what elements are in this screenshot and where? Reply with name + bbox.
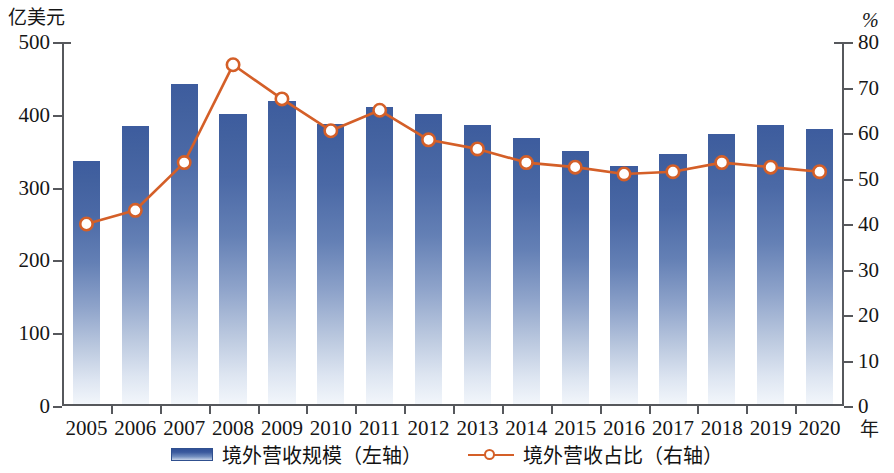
left-axis-tick-label: 500 <box>4 30 50 55</box>
chart-container: 亿美元 % 年 5004003002001000 807060504030201… <box>0 0 894 473</box>
x-axis-tick <box>697 406 699 414</box>
right-axis-tick <box>844 179 853 181</box>
right-axis-tick-label: 40 <box>858 212 894 237</box>
left-axis-tick <box>53 42 62 44</box>
line-marker <box>227 59 239 71</box>
line-marker <box>520 156 532 168</box>
x-axis-tick <box>502 406 504 414</box>
left-axis-tick <box>53 406 62 408</box>
line-marker <box>129 204 141 216</box>
line-marker <box>276 93 288 105</box>
x-axis-tick <box>209 406 211 414</box>
right-axis-tick-label: 70 <box>858 75 894 100</box>
line-marker <box>325 125 337 137</box>
right-axis-tick <box>844 315 853 317</box>
plot-area <box>62 42 844 406</box>
line-marker <box>618 168 630 180</box>
line-marker <box>373 104 385 116</box>
legend-item-line: 境外营收占比（右轴） <box>468 440 723 469</box>
line-marker <box>471 143 483 155</box>
right-axis-tick-label: 80 <box>858 30 894 55</box>
right-axis-tick <box>844 133 853 135</box>
line-marker <box>178 156 190 168</box>
left-axis-tick <box>53 188 62 190</box>
line-marker <box>716 156 728 168</box>
left-axis-unit-label: 亿美元 <box>8 8 65 27</box>
legend-bar-swatch <box>171 448 213 461</box>
right-axis-tick-label: 30 <box>858 257 894 282</box>
right-axis-tick-label: 0 <box>858 394 894 419</box>
x-axis-tick <box>355 406 357 414</box>
line-marker <box>813 165 825 177</box>
x-axis-tick-label: 2020 <box>790 416 850 441</box>
line-marker <box>667 165 679 177</box>
x-axis-tick <box>258 406 260 414</box>
right-axis-tick-label: 50 <box>858 166 894 191</box>
right-axis-tick <box>844 224 853 226</box>
x-axis-tick <box>404 406 406 414</box>
line-marker <box>422 134 434 146</box>
x-axis-tick <box>746 406 748 414</box>
x-axis-tick <box>600 406 602 414</box>
right-axis-tick <box>844 361 853 363</box>
right-axis-tick <box>844 270 853 272</box>
x-axis-tick <box>453 406 455 414</box>
chart-legend: 境外营收规模（左轴） 境外营收占比（右轴） <box>0 440 894 469</box>
right-axis-unit-label: % <box>862 10 879 30</box>
right-axis-tick <box>844 88 853 90</box>
legend-line-swatch <box>468 448 514 462</box>
right-axis-tick-label: 20 <box>858 303 894 328</box>
legend-line-label: 境外营收占比（右轴） <box>523 440 723 469</box>
left-axis-tick-label: 0 <box>4 394 50 419</box>
left-axis-tick <box>53 333 62 335</box>
left-axis-tick-label: 400 <box>4 102 50 127</box>
line-marker <box>569 161 581 173</box>
right-axis-tick-label: 10 <box>858 348 894 373</box>
x-axis-tick <box>795 406 797 414</box>
x-axis-tick <box>306 406 308 414</box>
left-axis-tick-label: 100 <box>4 321 50 346</box>
legend-item-bar: 境外营收规模（左轴） <box>171 440 422 469</box>
x-axis-tick <box>111 406 113 414</box>
left-axis-tick <box>53 115 62 117</box>
line-marker <box>764 161 776 173</box>
left-axis-tick <box>53 260 62 262</box>
right-axis-tick <box>844 406 853 408</box>
x-axis-tick <box>160 406 162 414</box>
legend-line-marker-icon <box>484 449 495 460</box>
percentage-line <box>86 65 819 224</box>
left-axis-tick-label: 300 <box>4 175 50 200</box>
x-axis-tick <box>649 406 651 414</box>
line-series-layer <box>62 42 844 406</box>
x-axis-tick <box>551 406 553 414</box>
right-axis-tick-label: 60 <box>858 121 894 146</box>
left-axis-tick-label: 200 <box>4 248 50 273</box>
legend-bar-label: 境外营收规模（左轴） <box>222 440 422 469</box>
line-marker <box>80 218 92 230</box>
right-axis-tick <box>844 42 853 44</box>
